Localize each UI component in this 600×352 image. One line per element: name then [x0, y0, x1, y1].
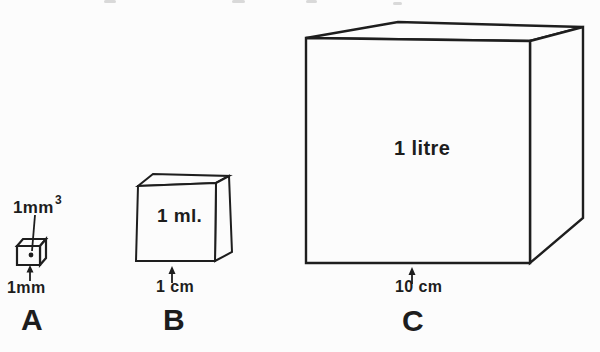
cube-a-volume-value: 1mm	[13, 198, 54, 217]
cube-b-right-face	[215, 176, 232, 261]
cube-c-volume-label: 1 litre	[394, 138, 450, 158]
cube-a-letter: A	[21, 305, 43, 335]
cube-a-pointer-dot	[29, 253, 34, 258]
cube-c-size-label: 10 cm	[395, 279, 442, 295]
cube-b-volume-label: 1 ml.	[157, 206, 202, 225]
cube-a-drawing	[17, 239, 46, 265]
page-crop-artifacts	[104, 0, 402, 5]
cube-b-size-label: 1 cm	[156, 279, 194, 295]
cube-b-letter: B	[163, 305, 185, 335]
cube-a-volume-exponent: 3	[55, 193, 62, 207]
cube-a-front-face	[17, 246, 40, 265]
cube-c-letter: C	[402, 306, 424, 336]
volume-units-diagram: 1mm3 1mm A 1 ml. 1 cm B 1 litre 10 cm C	[0, 0, 600, 352]
cube-c-right-face	[530, 27, 583, 263]
diagram-linework	[0, 0, 600, 352]
cube-a-size-label: 1mm	[7, 280, 46, 296]
cube-a-volume-label: 1mm3	[13, 196, 61, 216]
